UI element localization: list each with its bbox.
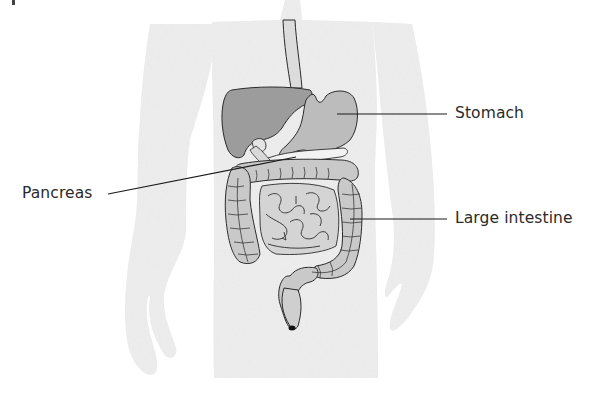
anus — [289, 326, 296, 331]
label-large-intestine: Large intestine — [455, 211, 573, 227]
label-stomach: Stomach — [455, 106, 524, 122]
left-arm — [125, 24, 212, 375]
right-arm — [372, 22, 435, 330]
label-pancreas: Pancreas — [22, 186, 92, 202]
